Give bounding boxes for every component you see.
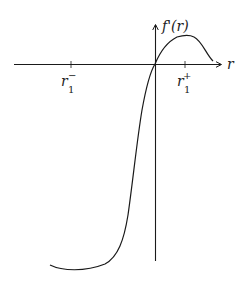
x-axis-label: r: [227, 56, 235, 72]
svg-text:+: +: [183, 70, 191, 81]
diagram-canvas: f'(r) r r 1 − r 1 +: [0, 0, 250, 282]
label-r1-minus: r 1 −: [61, 70, 76, 95]
y-axis-label: f'(r): [161, 18, 189, 34]
svg-text:−: −: [68, 70, 76, 81]
label-r1-plus: r 1 +: [177, 70, 191, 95]
svg-text:1: 1: [184, 84, 190, 95]
svg-text:1: 1: [68, 84, 74, 95]
